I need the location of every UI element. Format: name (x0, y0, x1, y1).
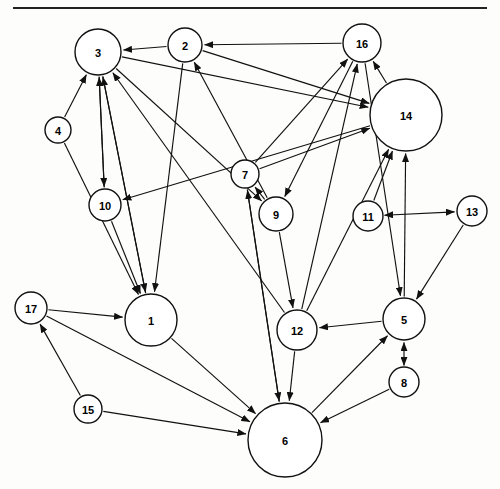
graph-edge-15-to-17 (40, 324, 80, 395)
graph-node-14[interactable]: 14 (370, 79, 442, 151)
graph-node-label-3: 3 (95, 47, 101, 59)
graph-node-label-11: 11 (362, 211, 374, 223)
graph-node-label-13: 13 (466, 206, 478, 218)
graph-node-label-7: 7 (242, 169, 248, 181)
graph-edge-7-to-14 (260, 128, 370, 168)
graph-node-label-15: 15 (82, 404, 94, 416)
graph-edge-5-to-14 (404, 154, 405, 297)
graph-node-9[interactable]: 9 (259, 197, 293, 231)
graph-edge-5-to-12 (319, 321, 381, 327)
graph-node-10[interactable]: 10 (89, 189, 121, 221)
graph-node-5[interactable]: 5 (383, 298, 425, 340)
graph-node-label-10: 10 (99, 200, 111, 212)
graph-edge-4-to-3 (65, 75, 87, 117)
graph-node-6[interactable]: 6 (248, 403, 322, 477)
graph-node-label-4: 4 (55, 125, 62, 137)
graph-node-label-6: 6 (282, 435, 288, 447)
graph-node-15[interactable]: 15 (74, 395, 102, 423)
graph-edge-15-to-6 (103, 411, 246, 433)
graph-edge-17-to-1 (48, 310, 122, 317)
graph-edge-11-to-13 (384, 212, 454, 215)
graph-edge-12-to-6 (289, 351, 294, 400)
graph-node-label-16: 16 (356, 38, 368, 50)
graph-node-2[interactable]: 2 (168, 28, 202, 62)
graph-node-16[interactable]: 16 (343, 24, 381, 62)
graph-node-label-1: 1 (148, 315, 154, 327)
graph-node-label-8: 8 (401, 377, 407, 389)
graph-edge-6-to-5 (312, 336, 388, 413)
graph-node-label-2: 2 (182, 40, 188, 52)
graph-node-7[interactable]: 7 (231, 160, 259, 188)
graph-edge-3-to-10 (99, 76, 104, 186)
graph-edge-14-to-16 (373, 61, 386, 83)
graph-diagram-page: 1234567891011121314151617 (0, 0, 500, 489)
graph-node-label-5: 5 (401, 314, 407, 326)
graph-node-13[interactable]: 13 (457, 196, 487, 226)
graph-edge-9-to-12 (279, 232, 293, 308)
graph-node-12[interactable]: 12 (277, 310, 317, 350)
graph-edge-8-to-6 (321, 389, 390, 422)
graph-node-label-9: 9 (273, 209, 279, 221)
graph-node-3[interactable]: 3 (75, 29, 121, 75)
graph-node-4[interactable]: 4 (45, 117, 71, 143)
graph-edge-7-to-16 (255, 59, 347, 162)
graph-node-1[interactable]: 1 (125, 294, 177, 346)
graph-edge-10-to-1 (112, 221, 141, 293)
graph-node-label-14: 14 (400, 110, 413, 122)
graph-node-label-12: 12 (291, 325, 303, 337)
graph-edge-13-to-5 (417, 225, 464, 299)
graph-edge-12-to-14 (307, 149, 389, 310)
graph-edge-9-to-7 (255, 187, 265, 199)
graph-edge-16-to-2 (205, 43, 342, 45)
graph-edge-2-to-1 (155, 63, 183, 291)
graph-canvas: 1234567891011121314151617 (0, 0, 500, 489)
graph-edge-2-to-3 (123, 46, 166, 49)
graph-node-17[interactable]: 17 (15, 292, 47, 324)
graph-edge-11-to-14 (374, 151, 393, 201)
graph-node-label-17: 17 (25, 303, 37, 315)
graph-node-11[interactable]: 11 (353, 201, 383, 231)
graph-node-8[interactable]: 8 (389, 367, 419, 397)
